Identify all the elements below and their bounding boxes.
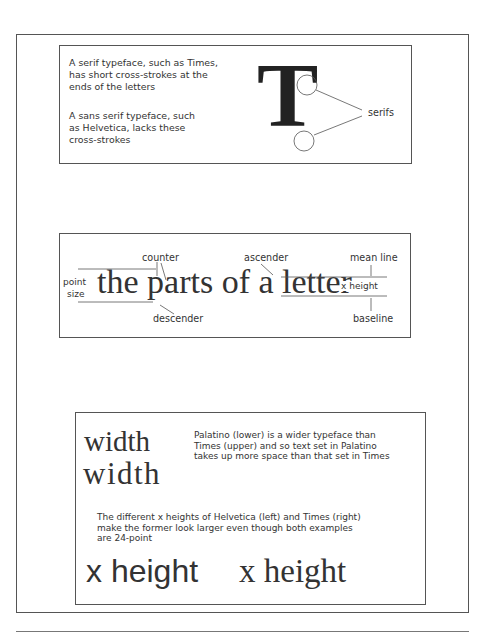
bottom-rule [16, 631, 469, 632]
x-height-caption: The different x heights of Helvetica (le… [97, 512, 422, 544]
sample-helvetica-x-height: x height [86, 551, 198, 591]
word-times: width [84, 425, 150, 457]
letter-anatomy-panel: counter ascender mean line point size th… [59, 233, 411, 338]
anatomy-guide-lines [60, 234, 412, 339]
serif-panel: A serif typeface, such as Times, has sho… [59, 45, 412, 164]
sample-times-x-height: x height [239, 551, 346, 591]
width-caption: Palatino (lower) is a wider typeface tha… [194, 430, 426, 462]
serif-callout-lines [60, 46, 413, 165]
width-comparison-panel: width width Palatino (lower) is a wider … [75, 412, 426, 605]
serifs-label: serifs [368, 107, 394, 118]
word-palatino: width [83, 457, 161, 491]
